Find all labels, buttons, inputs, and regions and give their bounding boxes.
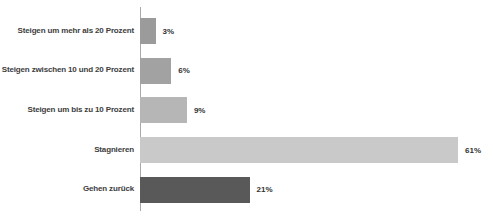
value-label: 9% [194,106,206,115]
bar [140,137,458,163]
value-label: 61% [465,146,481,155]
horizontal-bar-chart: Steigen um mehr als 20 Prozent3%Steigen … [0,0,493,218]
chart-row: Steigen um bis zu 10 Prozent9% [0,97,493,123]
bar [140,18,156,44]
value-label: 21% [257,185,273,194]
category-label: Steigen um bis zu 10 Prozent [0,106,140,115]
chart-row: Stagnieren61% [0,137,493,163]
chart-row: Gehen zurück21% [0,177,493,203]
category-label: Gehen zurück [0,185,140,194]
chart-rows: Steigen um mehr als 20 Prozent3%Steigen … [0,18,493,203]
bar [140,58,171,84]
value-label: 3% [163,27,175,36]
value-label: 6% [178,66,190,75]
category-label: Steigen zwischen 10 und 20 Prozent [0,66,140,75]
bar [140,177,250,203]
chart-row: Steigen um mehr als 20 Prozent3% [0,18,493,44]
category-label: Stagnieren [0,146,140,155]
chart-row: Steigen zwischen 10 und 20 Prozent6% [0,58,493,84]
bar [140,97,187,123]
category-label: Steigen um mehr als 20 Prozent [0,27,140,36]
